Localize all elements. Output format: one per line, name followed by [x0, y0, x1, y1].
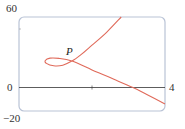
curve-line: [45, 17, 165, 104]
y-label-bottom: −20: [3, 113, 20, 124]
plot-frame: [19, 17, 165, 111]
y-label-zero: 0: [7, 82, 13, 93]
point-p-label: P: [66, 46, 73, 57]
y-label-top: 60: [6, 3, 17, 14]
parametric-curve-chart: [0, 0, 185, 129]
x-label-right: 4: [169, 82, 175, 93]
